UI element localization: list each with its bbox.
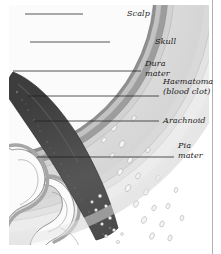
label-scalp-line1: Scalp [127,9,150,18]
label-haematoma: Haematoma (blood clot) [163,77,213,96]
anatomy-illustration [0,0,221,254]
label-skull: Skull [155,37,176,46]
label-arachnoid-line1: Arachnoid [163,116,206,125]
label-skull-line1: Skull [155,37,176,46]
label-pia-mater: Pia mater [178,141,203,160]
figure-page: Scalp Skull Dura mater Haematoma (blood … [0,0,221,254]
label-haematoma-line2: (blood clot) [163,87,213,97]
label-scalp: Scalp [127,9,150,18]
label-pia-line2: mater [178,151,203,161]
label-arachnoid: Arachnoid [163,116,206,125]
